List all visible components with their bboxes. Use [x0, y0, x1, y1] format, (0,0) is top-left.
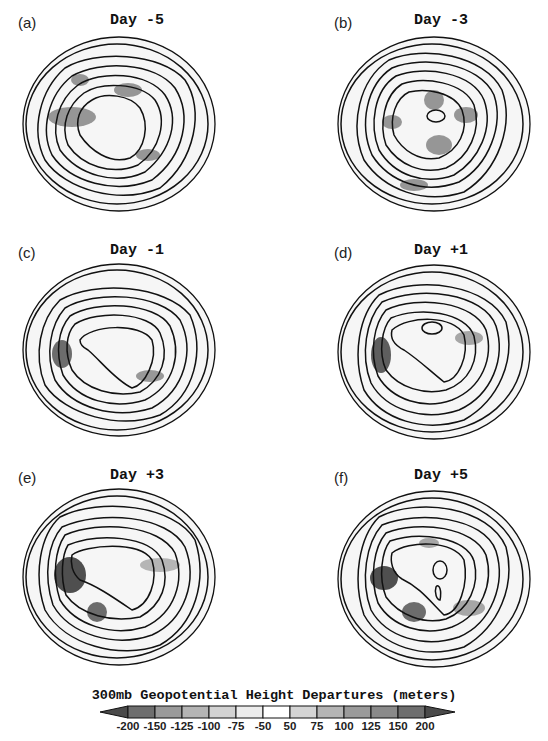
colorbar-tick: 125 — [361, 720, 380, 732]
colorbar-tick: -100 — [197, 720, 220, 732]
panel-b: (b) Day -3 — [274, 0, 548, 230]
colorbar-tick: -200 — [116, 720, 139, 732]
colorbar-tick: 150 — [388, 720, 407, 732]
panel-a: (a) Day -5 — [0, 0, 274, 230]
panel-c: (c) Day -1 — [0, 230, 274, 460]
panel-e: (e) Day +3 — [0, 455, 274, 685]
colorbar-tick: 200 — [415, 720, 434, 732]
panel-f: (f) Day +5 — [274, 455, 548, 685]
colorbar-tick: -50 — [255, 720, 272, 732]
polar-map — [0, 230, 274, 460]
panel-d: (d) Day +1 — [274, 230, 548, 460]
polar-map — [274, 230, 548, 460]
colorbar-tick: -75 — [228, 720, 245, 732]
polar-map — [274, 455, 548, 685]
colorbar-tick: 100 — [334, 720, 353, 732]
colorbar-tick: -150 — [143, 720, 166, 732]
colorbar-tick: 50 — [284, 720, 297, 732]
polar-map — [0, 0, 274, 230]
colorbar-tick: 75 — [311, 720, 324, 732]
colorbar-tick: -125 — [170, 720, 193, 732]
polar-map — [0, 455, 274, 685]
polar-map — [274, 0, 548, 230]
colorbar-title: 300mb Geopotential Height Departures (me… — [0, 688, 548, 703]
